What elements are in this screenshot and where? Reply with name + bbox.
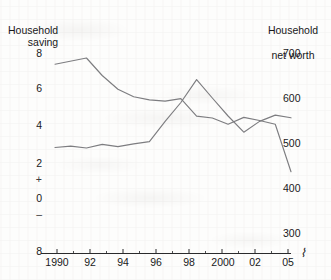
series-line-household-saving — [55, 58, 291, 172]
x-axis-tick-92: 92 — [84, 256, 96, 268]
x-axis-tick-2000: 2000 — [211, 256, 234, 268]
x-axis-tick-1990: 1990 — [45, 256, 68, 268]
plot-area — [0, 0, 331, 280]
x-axis-tick-02: 02 — [249, 256, 261, 268]
series-line-household-net-worth — [55, 80, 291, 148]
x-axis-minor-ticks — [74, 251, 272, 253]
x-axis-tick-96: 96 — [150, 256, 162, 268]
chart-figure: Household saving Household net worth 8 6… — [0, 0, 331, 280]
x-axis-tick-05: 05 — [282, 256, 294, 268]
x-axis-tick-94: 94 — [117, 256, 129, 268]
x-axis-tick-98: 98 — [183, 256, 195, 268]
axis-break-icon: ⌇ — [300, 246, 306, 261]
